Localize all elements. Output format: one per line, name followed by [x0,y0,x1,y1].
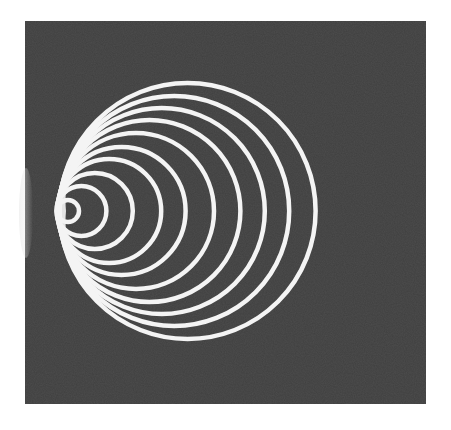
grain-overlay [25,21,426,404]
left-edge-glow [19,168,33,258]
wavefront-image [0,0,451,430]
